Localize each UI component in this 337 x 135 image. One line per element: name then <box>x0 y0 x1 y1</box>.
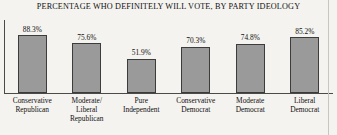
x-axis-label: ModerateDemocrat <box>223 96 277 114</box>
bar-group: 85.2% <box>278 18 332 93</box>
x-axis-labels: ConservativeRepublican Moderate/LiberalR… <box>5 96 332 124</box>
bar-group: 75.6% <box>60 18 114 93</box>
bar-value-label: 75.6% <box>77 33 96 42</box>
bar-chart-figure: PERCENTAGE WHO DEFINITELY WILL VOTE, BY … <box>0 0 337 135</box>
x-axis-label: ConservativeRepublican <box>5 96 59 114</box>
bar-value-label: 88.3% <box>23 25 42 34</box>
bar-rect <box>236 44 265 93</box>
bar-value-label: 51.9% <box>132 48 151 57</box>
bar-value-label: 85.2% <box>295 27 314 36</box>
bar-group: 51.9% <box>114 18 168 93</box>
bar-group: 74.8% <box>223 18 277 93</box>
x-axis-label: PureIndependent <box>114 96 168 114</box>
bar-rect <box>290 37 319 93</box>
bar-rect <box>181 47 210 93</box>
bar-group: 70.3% <box>169 18 223 93</box>
bar-rect <box>127 59 156 94</box>
x-axis-label: Moderate/LiberalRepublican <box>60 96 114 124</box>
x-axis-label: ConservativeDemocrat <box>169 96 223 114</box>
chart-title: PERCENTAGE WHO DEFINITELY WILL VOTE, BY … <box>0 2 337 11</box>
bar-group: 88.3% <box>5 18 59 93</box>
bar-rect <box>18 35 47 93</box>
x-axis-label: LiberalDemocrat <box>278 96 332 114</box>
plot-area: 88.3% 75.6% 51.9% 70.3% 74.8% 85.2% <box>4 18 329 94</box>
x-axis-baseline <box>4 93 333 94</box>
bar-value-label: 74.8% <box>241 33 260 42</box>
right-border-line <box>328 0 329 135</box>
bars-container: 88.3% 75.6% 51.9% 70.3% 74.8% 85.2% <box>5 18 332 93</box>
bar-value-label: 70.3% <box>186 36 205 45</box>
bar-rect <box>72 43 101 93</box>
